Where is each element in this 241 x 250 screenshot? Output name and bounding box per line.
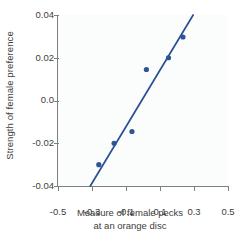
- y-tick-label: 0.02: [20, 53, 54, 63]
- x-axis-tick: [228, 186, 229, 191]
- y-tick-label: 0.04: [20, 10, 54, 20]
- trend-line: [90, 15, 193, 186]
- y-tick-label: -0.04: [20, 181, 54, 191]
- chart-data-layer: [58, 15, 228, 186]
- plot-area: -0.5 -0.3 -0.1 0.1 0.3 0.5: [57, 15, 228, 187]
- x-axis-tick: [92, 186, 93, 191]
- plot-inner: [58, 15, 228, 186]
- data-point: [180, 34, 185, 39]
- x-axis-label-line2: at an orange disc: [30, 220, 230, 233]
- x-axis-tick: [58, 186, 59, 191]
- data-point: [166, 55, 171, 60]
- data-point: [144, 67, 149, 72]
- y-axis-label: Strength of female preference: [0, 0, 18, 190]
- data-point: [129, 129, 134, 134]
- y-tick-label: -0.02: [20, 138, 54, 148]
- data-point: [96, 162, 101, 167]
- y-tick-label: 0.0: [20, 95, 54, 105]
- x-axis-tick: [160, 186, 161, 191]
- scatter-chart-figure: Strength of female preference 0.04 0.02 …: [0, 0, 241, 250]
- x-axis-label: Measure of female pecks at an orange dis…: [30, 207, 230, 232]
- x-axis-label-line1: Measure of female pecks: [30, 207, 230, 220]
- y-axis-label-text: Strength of female preference: [4, 31, 15, 160]
- data-point: [112, 141, 117, 146]
- x-axis-tick: [126, 186, 127, 191]
- x-axis-tick: [194, 186, 195, 191]
